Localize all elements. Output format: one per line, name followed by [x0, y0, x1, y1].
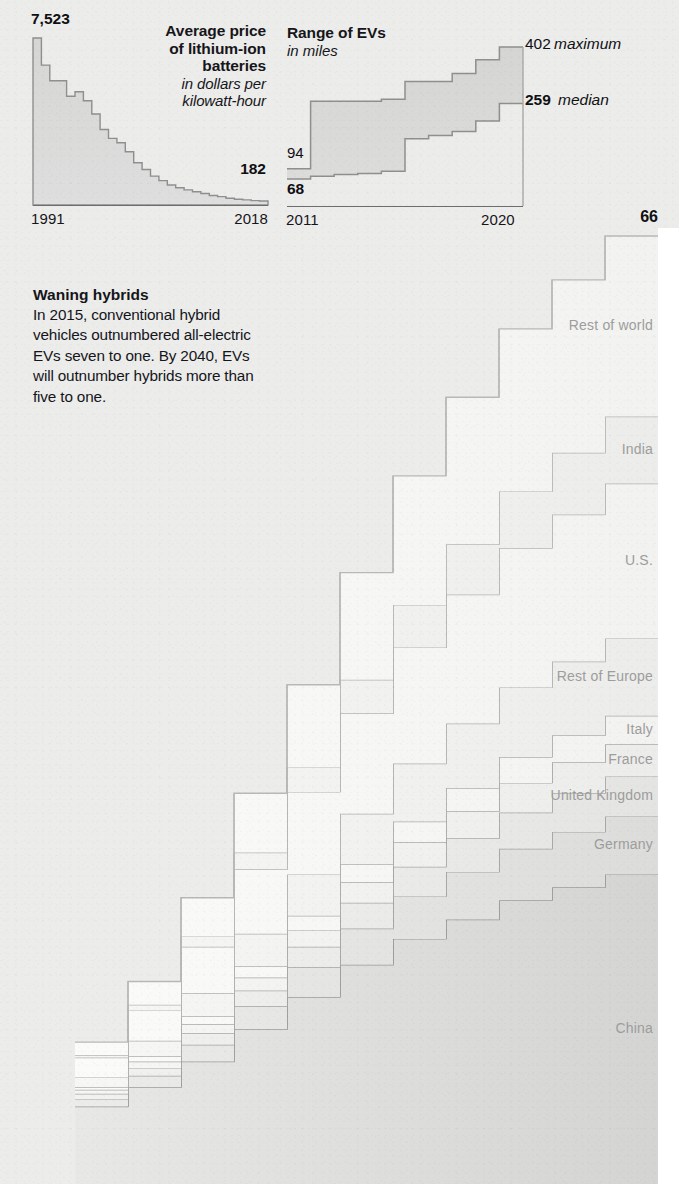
- stack-band-label-rest-of-europe: Rest of Europe: [557, 668, 653, 684]
- panel-ev-range: Range of EVs in miles 402 maximum 259 me…: [282, 0, 679, 228]
- range-low-lower-value: 68: [287, 180, 304, 198]
- range-max-value: 402: [525, 35, 551, 53]
- range-median-value: 259: [525, 91, 551, 109]
- range-median-label: median: [558, 91, 609, 109]
- stack-band-label-germany: Germany: [594, 836, 653, 852]
- range-x-axis: [287, 206, 523, 207]
- stack-band-label-united-kingdom: United Kingdom: [551, 787, 653, 803]
- stack-band-label-u-s: U.S.: [625, 552, 653, 568]
- callout-body: In 2015, conventional hybrid vehicles ou…: [33, 305, 273, 407]
- range-max-label: maximum: [554, 35, 621, 53]
- infographic-page: 7,523 Average price of lithium-ion batte…: [0, 0, 679, 1184]
- range-x-tick-end: 2020: [481, 211, 515, 228]
- battery-x-tick-start: 1991: [31, 210, 65, 227]
- stack-band-label-rest-of-world: Rest of world: [569, 317, 653, 333]
- battery-price-plot: [0, 0, 282, 228]
- callout-title: Waning hybrids: [33, 285, 273, 305]
- stack-band-label-china: China: [615, 1020, 653, 1036]
- panel-battery-price: 7,523 Average price of lithium-ion batte…: [0, 0, 282, 228]
- stack-band-label-italy: Italy: [626, 721, 653, 737]
- battery-x-tick-end: 2018: [234, 210, 268, 227]
- stack-total-value: 66: [640, 208, 658, 226]
- right-margin-gutter: [658, 228, 679, 1184]
- range-x-tick-start: 2011: [286, 211, 319, 228]
- battery-x-axis: [33, 205, 268, 206]
- range-low-upper-value: 94: [287, 144, 304, 161]
- callout-waning-hybrids: Waning hybrids In 2015, conventional hyb…: [33, 285, 273, 407]
- battery-end-value: 182: [240, 160, 266, 178]
- stack-band-label-france: France: [608, 751, 653, 767]
- stack-band-label-india: India: [622, 441, 653, 457]
